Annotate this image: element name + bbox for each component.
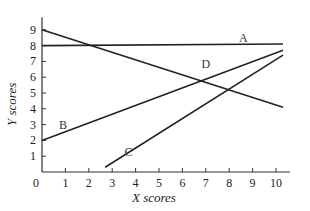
x-tick-label: 8 <box>226 176 232 190</box>
x-tick-label: 7 <box>203 176 209 190</box>
line-chart: 012345678910123456789 ABCD X scores Y sc… <box>0 0 310 211</box>
x-axis-title: X scores <box>131 190 176 205</box>
x-tick-label: 3 <box>109 176 115 190</box>
x-tick-label: 2 <box>86 176 92 190</box>
y-tick-label: 2 <box>30 133 36 147</box>
x-tick-label: 4 <box>133 176 139 190</box>
y-tick-label: 8 <box>30 39 36 53</box>
x-tick-label: 0 <box>33 176 39 190</box>
line-label-b: B <box>59 118 67 132</box>
y-tick-label: 5 <box>30 86 36 100</box>
y-tick-label: 7 <box>30 54 36 68</box>
line-label-c: C <box>125 145 133 159</box>
x-tick-label: 6 <box>179 176 185 190</box>
x-tick-label: 1 <box>62 176 68 190</box>
axes: 012345678910123456789 <box>30 17 290 190</box>
series-lines <box>42 30 283 167</box>
y-tick-label: 1 <box>30 149 36 163</box>
y-tick-label: 9 <box>30 23 36 37</box>
y-axis-title: Y scores <box>4 83 19 126</box>
y-tick-label: 4 <box>30 102 36 116</box>
line-label-a: A <box>239 31 248 45</box>
x-tick-label: 5 <box>156 176 162 190</box>
line-label-d: D <box>201 57 210 71</box>
x-tick-label: 9 <box>250 176 256 190</box>
y-tick-label: 6 <box>30 70 36 84</box>
y-tick-label: 3 <box>30 118 36 132</box>
x-tick-label: 10 <box>270 176 282 190</box>
